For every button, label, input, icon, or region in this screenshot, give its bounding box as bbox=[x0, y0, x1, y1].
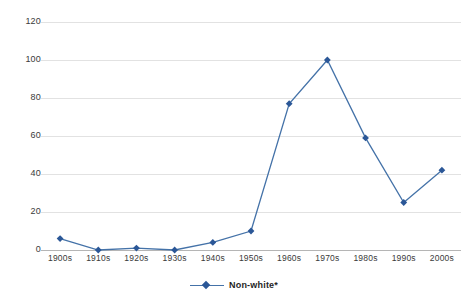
x-tick-label: 1900s bbox=[48, 253, 72, 263]
x-tick-label: 1970s bbox=[315, 253, 339, 263]
x-tick-label: 1910s bbox=[86, 253, 110, 263]
y-tick-label: 80 bbox=[7, 93, 41, 102]
legend-label-non-white: Non-white* bbox=[229, 280, 278, 290]
y-tick-label: 60 bbox=[7, 131, 41, 140]
x-axis: 1900s1910s1920s1930s1940s1950s1960s1970s… bbox=[41, 253, 461, 271]
series-line bbox=[60, 60, 442, 250]
x-tick-label: 1950s bbox=[239, 253, 263, 263]
x-tick-label: 1960s bbox=[277, 253, 301, 263]
y-tick-label: 40 bbox=[7, 169, 41, 178]
x-tick-label: 1980s bbox=[353, 253, 377, 263]
y-tick-label: 20 bbox=[7, 207, 41, 216]
data-point-marker bbox=[209, 239, 216, 246]
x-tick-label: 1990s bbox=[392, 253, 416, 263]
x-tick-label: 2000s bbox=[430, 253, 454, 263]
y-tick-label: 0 bbox=[7, 245, 41, 254]
data-point-marker bbox=[248, 228, 255, 235]
y-tick-label: 100 bbox=[7, 55, 41, 64]
legend-marker-icon bbox=[190, 280, 224, 290]
plot-area bbox=[41, 22, 461, 250]
line-chart: 020406080100120 1900s1910s1920s1930s1940… bbox=[0, 0, 468, 299]
chart-legend: Non-white* bbox=[0, 276, 468, 294]
y-axis: 020406080100120 bbox=[0, 0, 41, 299]
y-tick-label: 120 bbox=[7, 17, 41, 26]
series-non-white bbox=[41, 22, 461, 250]
data-point-marker bbox=[57, 235, 64, 242]
data-point-marker bbox=[362, 135, 369, 142]
x-tick-label: 1920s bbox=[124, 253, 148, 263]
x-tick-label: 1940s bbox=[201, 253, 225, 263]
x-tick-label: 1930s bbox=[163, 253, 187, 263]
